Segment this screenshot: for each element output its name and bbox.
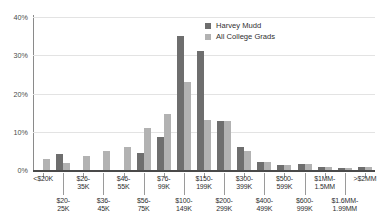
bar [43,159,50,170]
bar [184,82,191,170]
bar [177,36,184,170]
y-axis-tick-label: 40% [14,13,28,22]
legend-item-harvey-mudd: Harvey Mudd [205,21,275,30]
bar [257,162,264,170]
bar [197,51,204,170]
x-axis-tick-label: $56-75K [122,197,166,214]
bar [56,154,63,170]
bar-group [274,17,294,170]
x-axis-tick-label: <$20K [21,175,65,183]
bar-group [295,17,315,170]
x-axis-tick-label: $36-45K [81,197,125,214]
x-axis-tick-label: $1.6MM-1.99MM [323,197,367,214]
bar [264,162,271,170]
x-axis-tick-label: $150-199K [182,175,226,192]
bar [144,128,151,170]
bar [217,121,224,170]
x-axis-tick-label: $500-599K [262,175,306,192]
y-axis-tick-label: 10% [14,127,28,136]
bar [103,151,110,170]
x-axis-labels: <$20K$20-25K$26-35K$36-45K$46-55K$56-75K… [33,172,375,223]
y-axis-tick-label: 0% [18,166,28,175]
bar-group [73,17,93,170]
bar [244,151,251,170]
bar [224,121,231,170]
bar [63,163,70,170]
bar-group [134,17,154,170]
legend-swatch-icon [205,34,211,40]
bar-group [174,17,194,170]
bar-group [315,17,335,170]
bar [164,114,171,170]
x-axis-tick-label: $200-299K [202,197,246,214]
x-axis-tick-label: $300-399K [222,175,266,192]
chart-legend: Harvey Mudd All College Grads [205,21,275,41]
legend-item-all-college-grads: All College Grads [205,32,275,41]
bar [124,147,131,170]
bar-group [154,17,174,170]
bar-group [33,17,53,170]
bar-group [113,17,133,170]
y-axis-tick-label: 30% [14,51,28,60]
x-axis-tick-label: $76-99K [142,175,186,192]
bar-group [355,17,375,170]
bar [157,137,164,170]
x-axis-tick-label: $26-35K [61,175,105,192]
bar [204,120,211,170]
legend-label: All College Grads [216,32,275,41]
bars-layer [33,17,375,170]
x-axis-tick-label: >$2MM [343,175,379,183]
bar [137,153,144,170]
bar-group [93,17,113,170]
x-axis-tick-label: $600-999K [283,197,327,214]
bar-group [335,17,355,170]
income-distribution-bar-chart: 40%30%20%10%0% Harvey Mudd All College G… [0,0,379,223]
y-axis-ticks: 40%30%20%10%0% [0,0,32,223]
bar-group [53,17,73,170]
y-axis-tick-label: 20% [14,89,28,98]
x-axis-tick-label: $400-499K [242,197,286,214]
x-axis-tick-label: $100-149K [162,197,206,214]
plot-area [33,17,375,170]
x-axis-tick-label: $1MM-1.5MM [303,175,347,192]
legend-label: Harvey Mudd [216,21,261,30]
bar [83,156,90,170]
x-axis-tick-label: $46-55K [102,175,146,192]
legend-swatch-icon [205,23,211,29]
x-axis-tick-label: $20-25K [41,197,85,214]
bar [237,147,244,170]
